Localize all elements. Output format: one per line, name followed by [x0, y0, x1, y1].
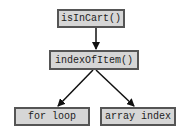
edge-mid-to-left — [58, 70, 93, 106]
node-is-in-cart: isInCart() — [57, 9, 125, 28]
node-label: isInCart() — [61, 13, 121, 24]
edge-mid-to-right — [96, 70, 134, 106]
node-array-index: array index — [100, 107, 176, 126]
node-for-loop: for loop — [14, 107, 90, 126]
node-label: for loop — [28, 111, 76, 122]
node-label: array index — [105, 111, 171, 122]
node-index-of-item: indexOfItem() — [49, 50, 139, 70]
node-label: indexOfItem() — [55, 55, 133, 66]
